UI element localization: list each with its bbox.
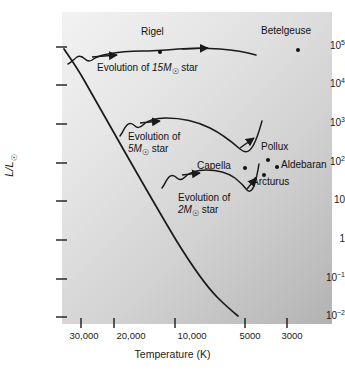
track-2-label-line2: 2M☉ star: [178, 204, 230, 220]
y-tick-label-1e5: 105: [299, 41, 345, 51]
y-tick-label-1: 1: [299, 234, 345, 244]
star-label-arcturus: Arcturus: [252, 176, 289, 187]
track-5-label-line2: 5M☉ star: [128, 143, 180, 159]
star-label-aldebaran: Aldebaran: [281, 159, 327, 170]
y-tick-label-1e4: 104: [299, 79, 345, 89]
y-tick-label-1e-2: 10−2: [299, 311, 345, 321]
star-dot-capella: [243, 166, 247, 170]
x-tick-label-3000: 3000: [281, 330, 302, 341]
x-tick-label-10000: 10,000: [177, 330, 206, 341]
y-axis-title: L/L☉: [3, 121, 18, 211]
star-dot-pollux: [266, 158, 270, 162]
star-dot-aldebaran: [275, 165, 279, 169]
star-label-betelgeuse: Betelgeuse: [261, 25, 311, 36]
y-tick-label-1e-1: 10−1: [299, 273, 345, 283]
y-tick-label-1e3: 103: [299, 118, 345, 128]
star-dot-betelgeuse: [296, 48, 300, 52]
track-5-label-line1: Evolution of: [128, 131, 180, 143]
star-dot-rigel: [158, 50, 162, 54]
track-5-label: Evolution of 5M☉ star: [128, 131, 180, 158]
track-2-label-line1: Evolution of: [178, 192, 230, 204]
x-tick-label-30000: 30,000: [69, 330, 98, 341]
track-2-label: Evolution of 2M☉ star: [178, 192, 230, 219]
star-label-rigel: Rigel: [141, 26, 164, 37]
star-label-pollux: Pollux: [261, 141, 288, 152]
x-tick-label-5000: 5000: [239, 330, 260, 341]
x-tick-label-20000: 20,000: [116, 330, 145, 341]
star-label-capella: Capella: [197, 160, 231, 171]
hr-diagram-figure: 105 104 103 102 10 1 10−1 10−2 30,000 20…: [0, 0, 345, 375]
x-axis-title: Temperature (K): [0, 348, 345, 360]
y-tick-label-10: 10: [299, 195, 345, 205]
track-15-label: Evolution of 15M☉ star: [97, 62, 198, 78]
